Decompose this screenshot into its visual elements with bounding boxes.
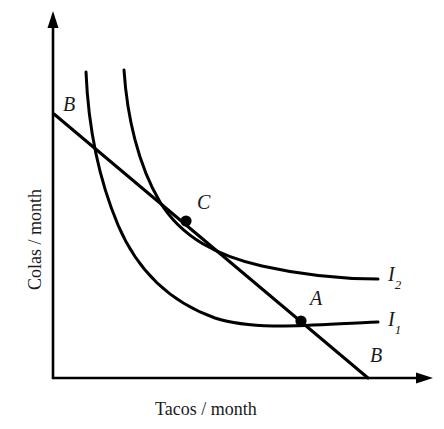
point-c-label: C: [197, 192, 210, 212]
arrow-right-icon: [416, 373, 433, 384]
budget-top-label: B: [63, 94, 75, 114]
curve-i2-label-subscript: 2: [395, 277, 402, 292]
budget-line: [54, 114, 368, 378]
y-axis-label: Colas / month: [26, 189, 44, 290]
curve-i2-label: I2: [388, 264, 401, 288]
indifference-curve-figure: B B C A I2 I1 Colas / month Tacos / mont…: [0, 0, 444, 429]
point-a-label: A: [310, 288, 322, 308]
point-c-marker: [180, 215, 191, 226]
x-axis-label: Tacos / month: [155, 400, 257, 418]
curve-i1-label: I1: [388, 309, 401, 333]
point-a-marker: [295, 315, 306, 326]
arrow-up-icon: [48, 11, 59, 28]
curve-i2-label-base: I: [388, 263, 395, 285]
budget-bottom-label: B: [370, 345, 382, 365]
curve-i1-label-subscript: 1: [395, 322, 402, 337]
curve-i1-label-base: I: [388, 308, 395, 330]
indifference-curve-i2: [124, 70, 378, 279]
